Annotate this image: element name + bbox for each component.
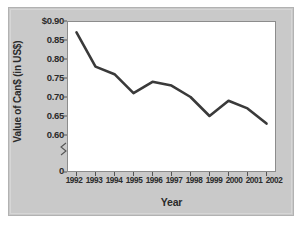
data-series-line bbox=[77, 32, 267, 123]
x-tick-marks bbox=[77, 172, 267, 176]
chart-graphics bbox=[0, 0, 308, 230]
axis-break-icon bbox=[61, 143, 66, 155]
chart-figure: $0.90 0.85 0.80 0.75 0.70 0.65 0.60 0 19… bbox=[0, 0, 308, 230]
